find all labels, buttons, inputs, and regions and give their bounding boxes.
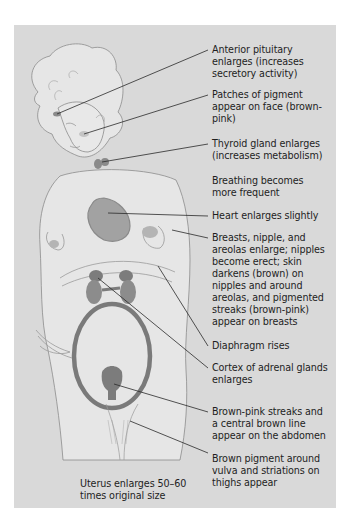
label-abdomen: Brown-pink streaks and a central brown l… [212,406,326,442]
thyroid [94,158,109,169]
label-breathing: Breathing becomes more frequent [212,175,304,199]
areola [49,240,59,248]
label-face-pigment: Patches of pigment appear on face (brown… [212,89,322,125]
label-vulva: Brown pigment around vulva and striation… [212,453,320,489]
label-adrenal: Cortex of adrenal glands enlarges [212,362,328,386]
label-diaphragm: Diaphragm rises [212,340,289,352]
label-breasts: Breasts, nipple, and areolas enlarge; ni… [212,232,325,328]
label-uterus: Uterus enlarges 50–60 times original siz… [80,478,186,502]
label-thyroid: Thyroid gland enlarges (increases metabo… [212,138,322,162]
label-heart: Heart enlarges slightly [212,210,318,222]
label-pituitary: Anterior pituitary enlarges (increases s… [212,44,304,80]
areola [142,226,158,238]
